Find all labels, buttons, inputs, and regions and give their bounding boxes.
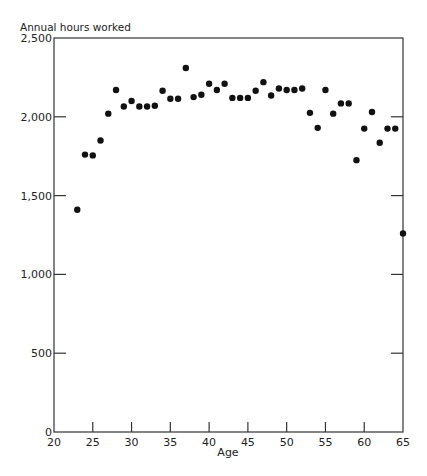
data-point: [299, 85, 305, 91]
data-point: [198, 92, 204, 98]
data-point: [307, 110, 313, 116]
data-point: [90, 152, 96, 158]
data-point: [214, 87, 220, 93]
data-point: [377, 140, 383, 146]
data-point: [338, 100, 344, 106]
data-point: [167, 95, 173, 101]
data-points: [74, 65, 406, 237]
x-tick-label: 40: [202, 436, 216, 449]
x-tick-label: 65: [396, 436, 410, 449]
data-point: [74, 207, 80, 213]
y-tick-label: 500: [31, 347, 52, 360]
data-point: [105, 110, 111, 116]
data-point: [190, 94, 196, 100]
data-point: [183, 65, 189, 71]
data-point: [369, 109, 375, 115]
data-point: [136, 103, 142, 109]
data-point: [322, 87, 328, 93]
data-point: [237, 95, 243, 101]
y-tick-label: 2,500: [21, 32, 53, 45]
x-axis: 20253035404550556065: [47, 422, 410, 449]
data-point: [314, 125, 320, 131]
x-tick-label: 20: [47, 436, 61, 449]
data-point: [159, 88, 165, 94]
x-tick-label: 25: [86, 436, 100, 449]
data-point: [283, 87, 289, 93]
data-point: [175, 95, 181, 101]
data-point: [330, 110, 336, 116]
data-point: [276, 85, 282, 91]
data-point: [113, 87, 119, 93]
data-point: [152, 103, 158, 109]
data-point: [229, 95, 235, 101]
data-point: [268, 92, 274, 98]
data-point: [392, 125, 398, 131]
scatter-chart: Annual hours worked 05001,0001,5002,0002…: [0, 0, 427, 476]
data-point: [128, 98, 134, 104]
data-point: [82, 151, 88, 157]
data-point: [260, 79, 266, 85]
data-point: [144, 103, 150, 109]
data-point: [245, 95, 251, 101]
data-point: [361, 125, 367, 131]
data-point: [206, 81, 212, 87]
data-point: [97, 137, 103, 143]
data-point: [221, 81, 227, 87]
data-point: [353, 157, 359, 163]
data-point: [121, 103, 127, 109]
plot-frame: [54, 38, 403, 432]
y-axis: 05001,0001,5002,0002,500: [21, 32, 404, 439]
data-point: [252, 88, 258, 94]
x-tick-label: 55: [318, 436, 332, 449]
x-tick-label: 60: [357, 436, 371, 449]
y-tick-label: 1,500: [21, 190, 53, 203]
x-tick-label: 50: [280, 436, 294, 449]
x-axis-title: Age: [217, 446, 239, 459]
x-tick-label: 45: [241, 436, 255, 449]
y-tick-label: 2,000: [21, 111, 53, 124]
x-tick-label: 30: [125, 436, 139, 449]
data-point: [400, 230, 406, 236]
x-tick-label: 35: [163, 436, 177, 449]
y-tick-label: 1,000: [21, 268, 53, 281]
data-point: [384, 125, 390, 131]
data-point: [291, 87, 297, 93]
data-point: [346, 100, 352, 106]
